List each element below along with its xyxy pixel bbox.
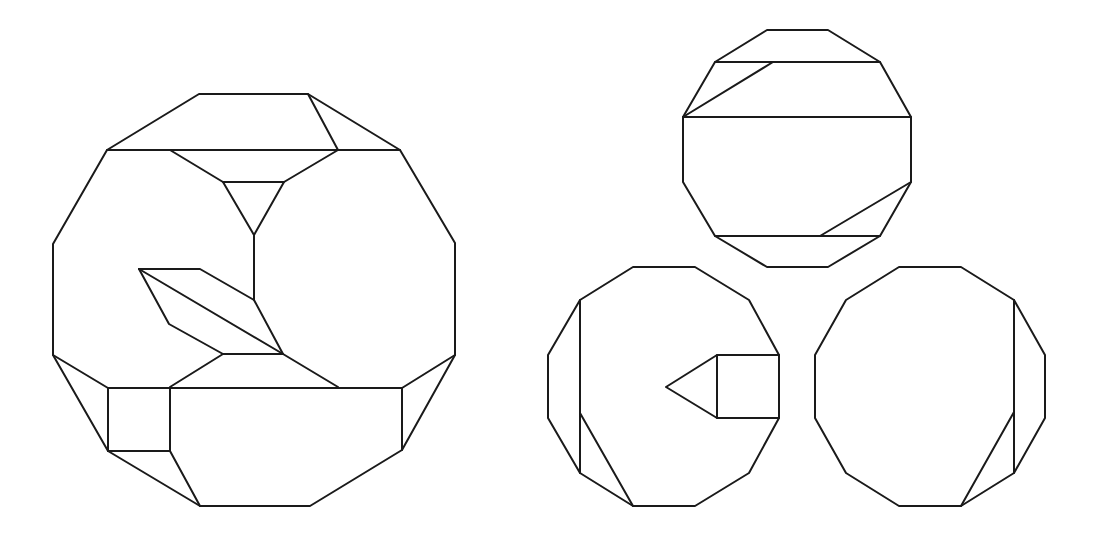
diagram-canvas xyxy=(0,0,1099,540)
bottom-left-dodecagon xyxy=(548,267,779,506)
dissection-line xyxy=(820,182,911,236)
dissection-line xyxy=(666,355,779,418)
top-right-dodecagon xyxy=(683,30,911,267)
dissection-line xyxy=(683,62,773,117)
dissection-line xyxy=(108,388,170,451)
figure-outline xyxy=(815,267,1045,506)
large-dissected-figure xyxy=(53,94,455,506)
bottom-right-dodecagon xyxy=(815,267,1045,506)
dissection-line xyxy=(139,269,283,354)
figure-outline xyxy=(683,30,911,267)
dissection-line xyxy=(170,150,338,182)
dissection-line xyxy=(223,182,284,235)
dissection-line xyxy=(108,355,455,388)
dissection-line xyxy=(170,354,223,387)
geometry-diagram xyxy=(0,0,1099,540)
figure-outline xyxy=(548,267,779,506)
dissection-line xyxy=(961,412,1014,506)
dissection-line xyxy=(580,413,633,506)
